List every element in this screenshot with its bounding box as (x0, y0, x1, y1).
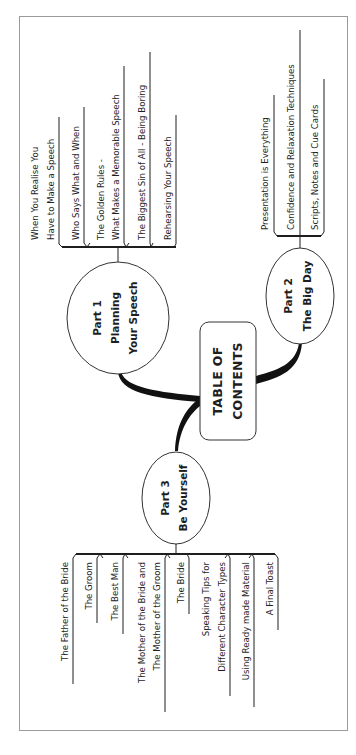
part1-child-5: Rehearsing Your Speech (163, 136, 173, 240)
part1-child-4-underline (150, 52, 151, 247)
part3-child-1-underline (73, 554, 76, 684)
part1-child-5-underline (174, 115, 176, 247)
part3-child-8-underline (275, 554, 278, 630)
toc-title-line-2: CONTENTS (230, 342, 245, 420)
part3-child-2: The Groom (84, 562, 94, 611)
part2-child-1: Presentation is Everything (260, 117, 270, 230)
part1-child-3-line-1: The Golden Rules - (96, 159, 106, 241)
branch-to-part2 (256, 343, 302, 384)
part3-label: Part 3 (159, 480, 171, 516)
part3-child-7: Using Ready made Material (241, 562, 251, 680)
mind-map-page: TABLE OF CONTENTS When You Realise You H… (0, 0, 356, 755)
part3-child-6-underline (228, 554, 230, 696)
part3-child-1: The Father of the Bride (60, 562, 70, 662)
part3-child-5: The Bride (176, 562, 186, 604)
part2-child-3: Scripts, Notes and Cue Cards (310, 104, 320, 230)
part2-child-3-underline (321, 79, 324, 236)
part3-child-4-underline (165, 554, 167, 712)
part3-group: Part 3 Be Yourself The Father of the Bri… (60, 452, 278, 712)
part3-child-2-underline (97, 554, 100, 623)
part1-subtitle-line-1: Planning (109, 292, 121, 344)
part1-label: Part 1 (91, 300, 103, 336)
part3-child-4-line-2: The Mother of the Groom (152, 562, 162, 672)
branch-to-part1 (118, 372, 200, 402)
part2-group: Presentation is Everything Confidence an… (260, 30, 334, 344)
part1-child-4: The Biggest Sin of All - Being Boring (137, 85, 147, 241)
part3-child-4-line-1: The Mother of the Bride and (137, 562, 147, 684)
branch-to-part3 (175, 398, 200, 451)
part1-child-3-underline (124, 66, 126, 247)
part2-child-2: Confidence and Relaxation Techniques (286, 64, 296, 230)
part3-child-5-underline (187, 554, 189, 614)
part3-child-6-line-1: Speaking Tips for (201, 562, 211, 637)
part1-child-1-line-2: Have to Make a Speech (46, 139, 56, 240)
toc-title-line-1: TABLE OF (210, 346, 225, 415)
part1-child-1-line-1: When You Realise You (30, 147, 40, 240)
part3-node (142, 452, 210, 544)
part3-child-7-underline (252, 554, 254, 707)
part1-group: When You Realise You Have to Make a Spee… (30, 52, 176, 374)
part2-node (266, 248, 334, 344)
part2-subtitle: The Big Day (301, 261, 313, 332)
part3-child-3: The Best Man (110, 562, 120, 622)
part2-child-1-underline (274, 95, 277, 236)
toc-node: TABLE OF CONTENTS (200, 322, 256, 440)
part1-child-3-line-2: What Makes a Memorable Speech (111, 94, 121, 240)
part3-child-3-underline (123, 554, 125, 634)
part3-subtitle: Be Yourself (177, 464, 189, 531)
part1-subtitle-line-2: Your Speech (127, 281, 139, 355)
part1-child-2-underline (84, 107, 87, 247)
part1-child-2: Who Says What and When (71, 126, 81, 240)
mind-map-diagram: TABLE OF CONTENTS When You Realise You H… (0, 0, 356, 755)
part1-child-1-underline (59, 117, 62, 247)
part2-label: Part 2 (282, 278, 294, 314)
part3-child-8: A Final Toast (265, 561, 275, 615)
part3-child-6-line-2: Different Character Types (217, 561, 227, 671)
